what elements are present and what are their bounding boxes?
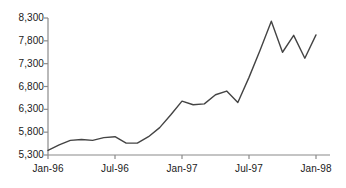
x-axis-tick-labels: Jan-96Jul-96Jan-97Jul-97Jan-98 (0, 0, 346, 188)
x-axis-tick-label: Jul-97 (235, 164, 263, 174)
x-axis-tick-label: Jan-98 (300, 164, 331, 174)
line-chart: 5,3005,8006,3006,8007,3007,8008,300 Jan-… (0, 0, 346, 188)
x-axis-tick-label: Jan-97 (166, 164, 197, 174)
x-axis-tick-label: Jan-96 (32, 164, 63, 174)
x-axis-tick-label: Jul-96 (101, 164, 129, 174)
